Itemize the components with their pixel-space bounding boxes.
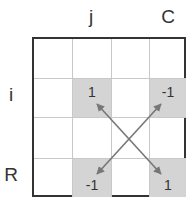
cell-1-2 [112, 79, 150, 118]
cell-2-2 [112, 118, 150, 159]
cropped-top-text [0, 0, 193, 1]
cell-0-3 [150, 39, 186, 79]
cell-0-0 [34, 39, 73, 79]
column-label-j: j [76, 6, 106, 28]
column-label-c: C [153, 6, 183, 28]
cell-2-3 [150, 118, 186, 159]
cell-3-2 [112, 159, 150, 197]
cell-3-0 [34, 159, 73, 197]
row-label-i: i [4, 84, 18, 106]
matrix-grid: 1 -1 -1 1 [32, 37, 186, 197]
row-label-r: R [4, 164, 18, 186]
cell-3-3-value: 1 [150, 159, 186, 197]
cell-1-3-value: -1 [150, 79, 186, 118]
cell-0-2 [112, 39, 150, 79]
cell-1-0 [34, 79, 73, 118]
cell-0-1 [73, 39, 112, 79]
cell-3-1-value: -1 [73, 159, 112, 197]
cell-2-0 [34, 118, 73, 159]
cell-2-1 [73, 118, 112, 159]
cell-1-1-value: 1 [73, 79, 112, 118]
